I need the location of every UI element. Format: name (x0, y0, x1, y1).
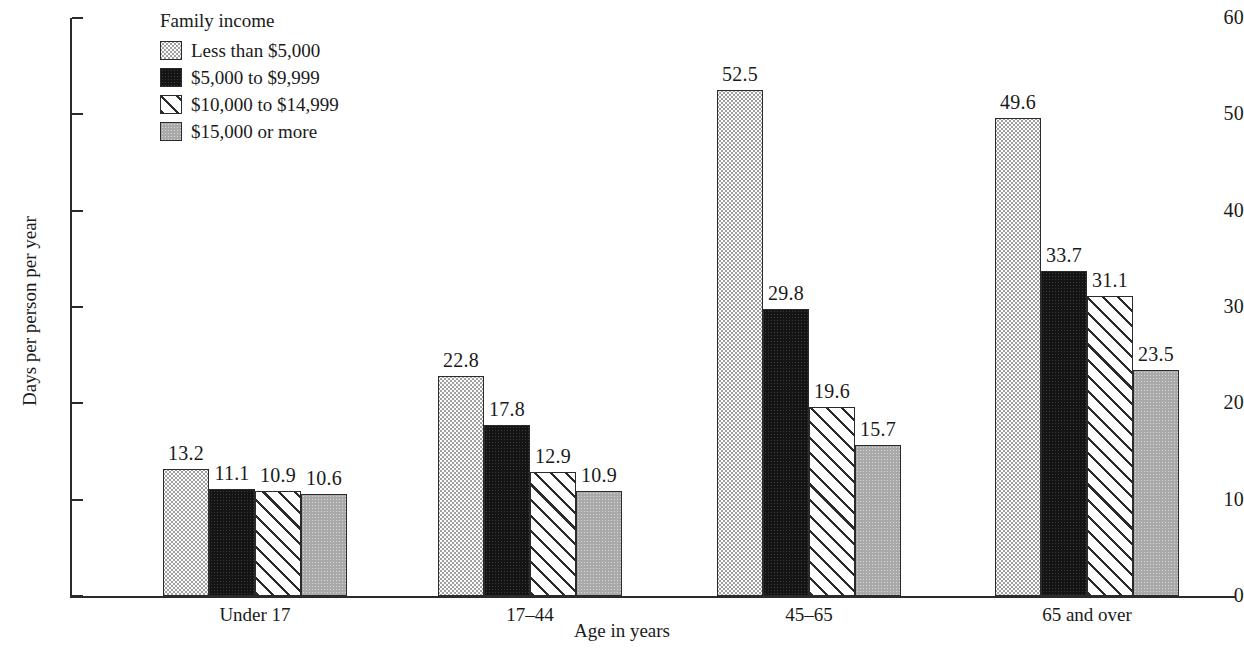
bar-value-label: 10.6 (287, 468, 361, 488)
bar-value-label: 13.2 (149, 443, 223, 463)
bar-value-label: 17.8 (470, 399, 544, 419)
legend-item-label: $10,000 to $14,999 (191, 95, 339, 114)
bar-value-label: 22.8 (424, 350, 498, 370)
bar (530, 472, 576, 596)
legend-swatch-icon (160, 41, 182, 60)
legend-item-label: $15,000 or more (191, 122, 317, 141)
bar-value-label: 52.5 (703, 64, 777, 84)
bar-value-label: 31.1 (1073, 270, 1147, 290)
x-category-label: 17–44 (388, 604, 672, 626)
bar (255, 491, 301, 596)
bar (995, 118, 1041, 596)
legend-item: $10,000 to $14,999 (160, 91, 470, 118)
bar-value-label: 15.7 (841, 419, 915, 439)
x-category-label: 45–65 (667, 604, 951, 626)
bar (576, 491, 622, 596)
legend-title: Family income (160, 10, 470, 32)
legend-swatch-icon (160, 122, 182, 141)
bar (209, 489, 255, 596)
bar-value-label: 29.8 (749, 283, 823, 303)
bar (1041, 271, 1087, 596)
bar (717, 90, 763, 596)
bar (301, 494, 347, 596)
x-category-label: Under 17 (113, 604, 397, 626)
bar-value-label: 19.6 (795, 381, 869, 401)
legend-items: Less than $5,000$5,000 to $9,999$10,000 … (150, 37, 470, 145)
bar-value-label: 33.7 (1027, 245, 1101, 265)
bar-value-label: 49.6 (981, 92, 1055, 112)
legend-item-label: Less than $5,000 (191, 41, 320, 60)
legend-swatch-icon (160, 95, 182, 114)
legend: Family income Less than $5,000$5,000 to … (150, 10, 470, 145)
legend-swatch-icon (160, 68, 182, 87)
x-category-label: 65 and over (945, 604, 1229, 626)
bar-value-label: 23.5 (1119, 344, 1193, 364)
bar-chart: 0102030405060 Days per person per year A… (0, 0, 1244, 650)
bar (763, 309, 809, 596)
legend-item: Less than $5,000 (160, 37, 470, 64)
bar-value-label: 12.9 (516, 446, 590, 466)
legend-item: $15,000 or more (160, 118, 470, 145)
legend-item-label: $5,000 to $9,999 (191, 68, 320, 87)
bar (163, 469, 209, 596)
bar (1133, 370, 1179, 596)
bar (855, 445, 901, 596)
legend-item: $5,000 to $9,999 (160, 64, 470, 91)
bar-value-label: 10.9 (562, 465, 636, 485)
bar (1087, 296, 1133, 596)
